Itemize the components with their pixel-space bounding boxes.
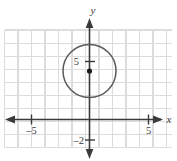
coordinate-plane-figure: 5 –2 –5 5 x y	[0, 0, 177, 161]
y-axis-arrow-up	[86, 18, 94, 28]
x-axis-label: x	[166, 113, 172, 125]
x-tick-label-neg5: –5	[25, 125, 37, 136]
circle-center-point	[87, 68, 92, 73]
y-tick-label-neg2: –2	[73, 135, 85, 146]
x-axis-arrow-right	[153, 116, 163, 124]
y-axis-arrow-down	[86, 149, 94, 159]
y-axis	[86, 18, 94, 159]
x-axis-arrow-left	[5, 116, 15, 124]
graph-canvas: 5 –2 –5 5 x y	[0, 0, 177, 161]
x-tick-label-pos5: 5	[146, 125, 151, 136]
y-tick-label-5: 5	[74, 56, 79, 67]
y-axis-label: y	[90, 4, 96, 16]
